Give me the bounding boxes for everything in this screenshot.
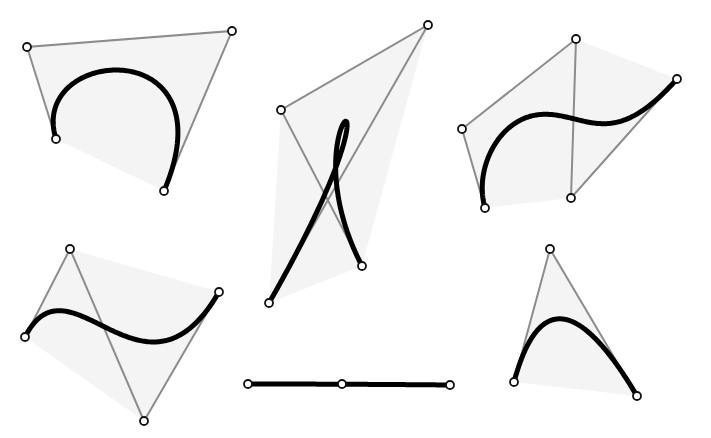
- control-point-cubic-arch-2[interactable]: [228, 27, 236, 35]
- convex-hull-cubic-arch: [27, 31, 232, 191]
- control-point-quadratic-line-0[interactable]: [244, 380, 252, 388]
- control-point-cubic-arch-3[interactable]: [160, 187, 168, 195]
- control-point-quartic-wave-1[interactable]: [458, 125, 466, 133]
- control-point-cubic-loop-0[interactable]: [265, 299, 273, 307]
- control-point-cubic-arch-0[interactable]: [52, 135, 60, 143]
- bezier-curves-diagram: [0, 0, 711, 438]
- control-point-quadratic-line-2[interactable]: [446, 381, 454, 389]
- control-point-cubic-s-3[interactable]: [215, 288, 223, 296]
- control-point-cubic-s-2[interactable]: [140, 417, 148, 425]
- control-point-quadratic-arch-2[interactable]: [633, 392, 641, 400]
- convex-hull-quartic-wave: [462, 39, 677, 208]
- control-point-cubic-s-1[interactable]: [66, 245, 74, 253]
- control-point-quadratic-line-1[interactable]: [338, 380, 346, 388]
- control-point-quartic-wave-0[interactable]: [481, 204, 489, 212]
- control-point-quadratic-arch-0[interactable]: [510, 378, 518, 386]
- convex-hull-layer: [25, 25, 677, 421]
- control-point-quartic-wave-2[interactable]: [572, 35, 580, 43]
- control-point-quadratic-arch-1[interactable]: [546, 245, 554, 253]
- control-point-cubic-loop-2[interactable]: [277, 106, 285, 114]
- control-point-quartic-wave-3[interactable]: [567, 194, 575, 202]
- control-point-cubic-loop-1[interactable]: [424, 21, 432, 29]
- control-point-cubic-loop-3[interactable]: [358, 262, 366, 270]
- control-point-cubic-s-0[interactable]: [21, 333, 29, 341]
- control-point-quartic-wave-4[interactable]: [673, 75, 681, 83]
- bezier-curve-quadratic-line: [248, 384, 450, 385]
- control-point-cubic-arch-1[interactable]: [23, 43, 31, 51]
